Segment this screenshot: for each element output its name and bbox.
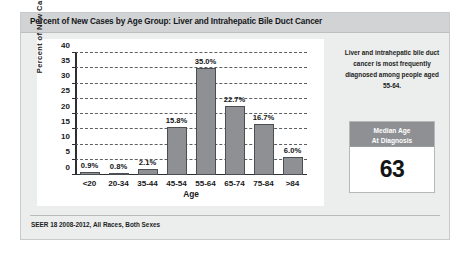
bar-group: 35.0%55-64 [191, 53, 220, 175]
x-tick-label: 45-54 [166, 179, 187, 188]
bar-value-label: 2.1% [139, 158, 156, 167]
bar[interactable] [138, 169, 158, 175]
y-tick-label: 30 [61, 71, 70, 80]
x-axis-title: Age [75, 189, 307, 199]
bar[interactable] [109, 173, 129, 175]
x-tick-label: 55-64 [195, 179, 216, 188]
bar-value-label: 22.7% [224, 95, 246, 104]
bar-group: 6.0%>84 [278, 53, 307, 175]
y-tick-label: 5 [66, 147, 70, 156]
bar[interactable] [283, 157, 303, 175]
plot-card: Percent of New Cases 0510152025303540 0.… [37, 39, 324, 206]
y-tick-label: 35 [61, 55, 70, 64]
chart-panel: Percent of New Cases by Age Group: Liver… [20, 12, 450, 240]
source-note: SEER 18 2008-2012, All Races, Both Sexes [31, 221, 160, 228]
bar[interactable] [167, 127, 187, 175]
x-tick-label: 65-74 [224, 179, 245, 188]
bar-group: 0.8%20-34 [104, 53, 133, 175]
x-tick-label: 75-84 [253, 179, 274, 188]
bar-value-label: 35.0% [195, 57, 217, 66]
side-note-text: Liver and intrahepatic bile duct cancer … [343, 47, 441, 91]
plot-area: 0510152025303540 0.9%<200.8%20-342.1%35-… [75, 53, 307, 175]
median-age-label-line1: Median Age [350, 126, 434, 136]
bar[interactable] [225, 106, 245, 175]
bar[interactable] [196, 68, 216, 175]
median-age-value: 63 [350, 147, 434, 192]
bar-group: 16.7%75-84 [249, 53, 278, 175]
page-title: Percent of New Cases by Age Group: Liver… [30, 17, 322, 26]
footer-divider [30, 215, 440, 216]
median-age-box-header: Median Age At Diagnosis [350, 122, 434, 147]
bar-value-label: 0.8% [110, 162, 127, 171]
y-tick-label: 0 [66, 162, 70, 171]
bar[interactable] [80, 172, 100, 175]
chart-header-band: Percent of New Cases by Age Group: Liver… [21, 13, 449, 33]
y-tick-label: 10 [61, 132, 70, 141]
x-tick-label: >84 [286, 179, 300, 188]
bar[interactable] [254, 124, 274, 175]
x-tick-label: <20 [83, 179, 97, 188]
bar-value-label: 15.8% [166, 116, 188, 125]
bar-group: 22.7%65-74 [220, 53, 249, 175]
bar-group: 0.9%<20 [75, 53, 104, 175]
median-age-box: Median Age At Diagnosis 63 [349, 121, 435, 193]
bar-group: 2.1%35-44 [133, 53, 162, 175]
median-age-label-line2: At Diagnosis [350, 136, 434, 146]
bar-value-label: 16.7% [253, 113, 275, 122]
y-axis-title: Percent of New Cases [35, 0, 47, 85]
y-tick-label: 25 [61, 86, 70, 95]
y-tick-label: 20 [61, 101, 70, 110]
y-tick-label: 40 [61, 40, 70, 49]
x-tick-label: 20-34 [108, 179, 129, 188]
x-tick-label: 35-44 [137, 179, 158, 188]
bar-value-label: 0.9% [81, 161, 98, 170]
bar-value-label: 6.0% [284, 146, 301, 155]
y-tick-label: 15 [61, 116, 70, 125]
bar-group: 15.8%45-54 [162, 53, 191, 175]
